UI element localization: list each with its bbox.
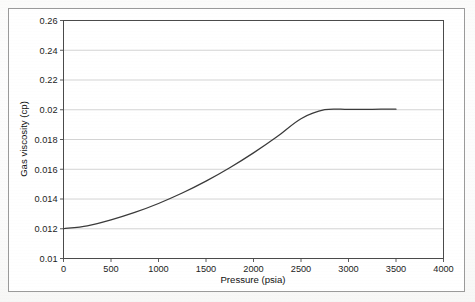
y-tick-label: 0.22 (40, 75, 58, 85)
y-axis-tick-labels: 0.010.0120.0140.0160.0180.020.220.240.26 (35, 16, 58, 264)
viscosity-curve (64, 109, 397, 229)
x-tick-label: 3500 (386, 264, 406, 274)
x-axis-ticks (64, 259, 444, 263)
x-tick-label: 4000 (433, 264, 453, 274)
figure-container: 05001000150020002500300035004000 0.010.0… (0, 0, 475, 302)
y-tick-label: 0.24 (40, 46, 58, 56)
y-tick-label: 0.016 (35, 165, 58, 175)
x-tick-label: 0 (61, 264, 66, 274)
x-tick-label: 2000 (243, 264, 263, 274)
y-tick-label: 0.012 (35, 224, 58, 234)
x-tick-label: 1500 (196, 264, 216, 274)
y-axis-title: Gas viscosity (cp) (18, 101, 29, 177)
gridlines (64, 21, 444, 229)
x-axis-title: Pressure (psia) (220, 274, 285, 285)
y-axis-ticks (60, 21, 64, 259)
data-series-line (64, 109, 397, 229)
x-axis-tick-labels: 05001000150020002500300035004000 (61, 264, 454, 274)
y-tick-label: 0.02 (40, 105, 58, 115)
y-tick-label: 0.26 (40, 16, 58, 26)
x-tick-label: 1000 (148, 264, 168, 274)
x-tick-label: 2500 (291, 264, 311, 274)
x-tick-label: 3000 (338, 264, 358, 274)
x-tick-label: 500 (103, 264, 118, 274)
y-tick-label: 0.018 (35, 135, 58, 145)
y-tick-label: 0.01 (40, 254, 58, 264)
y-tick-label: 0.014 (35, 194, 58, 204)
gas-viscosity-vs-pressure-chart: 05001000150020002500300035004000 0.010.0… (0, 0, 475, 302)
